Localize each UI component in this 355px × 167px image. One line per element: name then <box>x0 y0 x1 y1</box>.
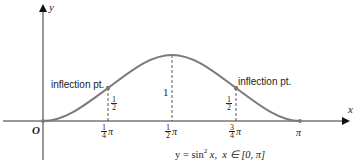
height-label-left: 1 2 <box>111 96 117 111</box>
tick-three-quarter-pi: 34 π <box>229 124 241 139</box>
origin-point <box>41 119 45 123</box>
inflection-point-left <box>106 86 110 90</box>
inflection-label-left: inflection pt. <box>51 79 104 90</box>
tick-quarter-pi: 14 π <box>101 124 113 139</box>
y-axis-label: y <box>49 1 54 13</box>
height-label-right: 1 2 <box>226 96 232 111</box>
chart-caption: y = sin2 x, x ∈ [0, π] <box>175 147 265 160</box>
x-axis-arrow-icon <box>342 117 350 125</box>
origin-label: O <box>32 124 40 136</box>
y-axis-arrow-icon <box>39 4 47 12</box>
height-label-mid: 1 <box>163 86 169 98</box>
x-axis-label: x <box>348 103 353 115</box>
end-point <box>298 119 302 123</box>
inflection-label-right: inflection pt. <box>238 76 291 87</box>
tick-pi: π <box>296 127 301 138</box>
tick-half-pi: 12 π <box>165 124 177 139</box>
